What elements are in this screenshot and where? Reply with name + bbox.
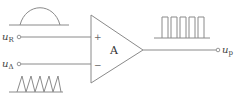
half-sine-waveform: [9, 8, 69, 25]
input-uDelta-label: uΔ: [2, 58, 14, 71]
plus-sign: +: [94, 32, 102, 42]
output-terminal: [216, 48, 220, 52]
comparator-diagram: uR uΔ + − A up: [0, 0, 237, 104]
input-uDelta: uΔ: [2, 58, 91, 71]
triangle-waveform: [9, 76, 63, 92]
minus-sign: −: [94, 60, 102, 70]
input-uR-label: uR: [2, 31, 14, 44]
input-uR-terminal: [17, 35, 21, 39]
output-up: up: [143, 44, 233, 57]
amplifier: + − A: [91, 15, 143, 83]
output-label: up: [222, 44, 233, 57]
amplifier-label: A: [109, 44, 119, 57]
input-uDelta-terminal: [17, 62, 21, 66]
pulse-train-waveform: [154, 17, 210, 38]
input-uR: uR: [2, 31, 91, 44]
